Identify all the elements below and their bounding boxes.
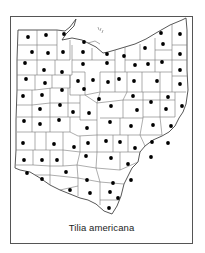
county-dot bbox=[85, 178, 89, 182]
county-dot bbox=[57, 118, 61, 122]
occurrence-dots bbox=[21, 31, 184, 210]
state-outline bbox=[15, 18, 188, 214]
county-dot bbox=[81, 62, 85, 66]
county-dot bbox=[129, 178, 133, 182]
county-dot bbox=[129, 124, 133, 128]
county-dot bbox=[71, 110, 75, 114]
county-dot bbox=[166, 95, 170, 99]
county-dot bbox=[87, 111, 91, 115]
county-dot bbox=[108, 120, 112, 124]
county-dot bbox=[88, 191, 92, 195]
county-dot bbox=[132, 79, 136, 83]
county-dot bbox=[30, 50, 34, 54]
county-dot bbox=[146, 62, 150, 66]
county-dot bbox=[118, 140, 122, 144]
county-dot bbox=[116, 196, 120, 200]
county-dot bbox=[64, 170, 68, 174]
county-dot bbox=[84, 154, 88, 158]
county-dot bbox=[86, 141, 90, 145]
county-dot bbox=[25, 171, 29, 175]
county-dot bbox=[149, 100, 153, 104]
county-dot bbox=[159, 31, 163, 35]
county-dot bbox=[46, 51, 50, 55]
county-dot bbox=[26, 35, 30, 39]
county-dot bbox=[107, 206, 111, 210]
county-dot bbox=[44, 33, 48, 37]
county-dot bbox=[178, 82, 182, 86]
county-dot bbox=[60, 70, 64, 74]
county-dot bbox=[160, 60, 164, 64]
county-dot bbox=[105, 52, 109, 56]
county-dot bbox=[111, 181, 115, 185]
county-dot bbox=[40, 158, 44, 162]
county-dot bbox=[178, 32, 182, 36]
county-dot bbox=[58, 103, 62, 107]
county-dot bbox=[82, 87, 86, 91]
county-dot bbox=[91, 78, 95, 82]
county-dot bbox=[104, 139, 108, 143]
county-dot bbox=[108, 190, 112, 194]
county-dot bbox=[23, 61, 27, 65]
county-dot bbox=[155, 79, 159, 83]
lake-islands bbox=[88, 27, 103, 44]
county-dot bbox=[62, 32, 66, 36]
county-dot bbox=[166, 141, 170, 145]
county-dot bbox=[81, 50, 85, 54]
county-dot bbox=[131, 94, 135, 98]
county-dot bbox=[133, 63, 137, 67]
county-dot bbox=[135, 108, 139, 112]
county-dot bbox=[38, 122, 42, 126]
county-dot bbox=[60, 88, 64, 92]
county-dot bbox=[117, 77, 121, 81]
county-dot bbox=[143, 46, 147, 50]
county-dot bbox=[169, 124, 173, 128]
county-dot bbox=[97, 97, 101, 101]
county-dot bbox=[52, 142, 56, 146]
county-dot bbox=[109, 156, 113, 160]
county-dot bbox=[68, 188, 72, 192]
species-label: Tilia americana bbox=[10, 222, 193, 233]
county-dot bbox=[55, 158, 59, 162]
county-dot bbox=[109, 104, 113, 108]
county-dot bbox=[43, 81, 47, 85]
county-dot bbox=[22, 119, 26, 123]
county-dot bbox=[38, 107, 42, 111]
county-dot bbox=[61, 50, 65, 54]
county-dot bbox=[82, 40, 86, 44]
county-dot bbox=[22, 158, 26, 162]
county-dot bbox=[24, 77, 28, 81]
county-dot bbox=[150, 140, 154, 144]
county-dot bbox=[178, 52, 182, 56]
county-dot bbox=[72, 145, 76, 149]
county-dot bbox=[161, 42, 165, 46]
ohio-county-map bbox=[0, 0, 205, 253]
county-dot bbox=[180, 104, 184, 108]
county-dot bbox=[149, 155, 153, 159]
county-dot bbox=[164, 107, 168, 111]
county-dot bbox=[76, 79, 80, 83]
county-dot bbox=[122, 54, 126, 58]
county-dot bbox=[40, 93, 44, 97]
county-dot bbox=[106, 80, 110, 84]
county-dot bbox=[133, 146, 137, 150]
county-dot bbox=[85, 126, 89, 130]
county-dot bbox=[178, 68, 182, 72]
county-dot bbox=[105, 61, 109, 65]
county-dot bbox=[42, 68, 46, 72]
county-dot bbox=[21, 94, 25, 98]
county-dot bbox=[40, 177, 44, 181]
county-dot bbox=[21, 141, 25, 145]
county-dot bbox=[151, 123, 155, 127]
county-dot bbox=[126, 162, 130, 166]
